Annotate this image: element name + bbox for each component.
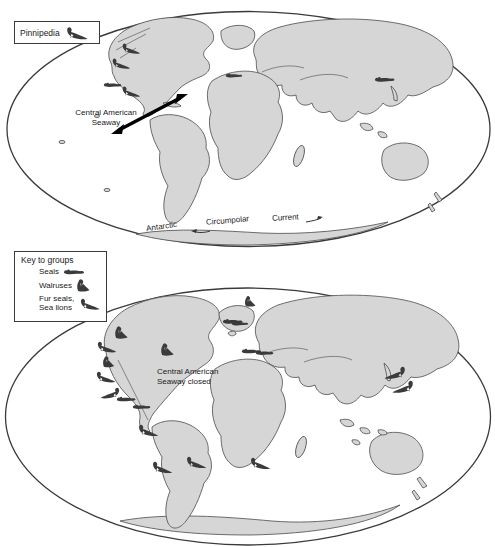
legend-item-walruses: Walruses	[39, 278, 102, 292]
map1-pacific-island	[59, 140, 65, 143]
map2-seaway-closed-label: Central American Seaway closed	[157, 367, 247, 387]
legend-fur-seals-line2: Sea lions	[39, 303, 72, 312]
seal-icon	[63, 266, 85, 276]
pinnipedia-furseal-icon	[64, 25, 88, 40]
pinnipedia-title-box: Pinnipedia	[14, 21, 100, 44]
legend-seals-label: Seals	[39, 267, 59, 276]
map2-seaway-label-line1: Central American	[157, 367, 247, 377]
legend-item-seals: Seals	[39, 266, 102, 276]
map2-modern	[6, 288, 491, 545]
fur-seal-icon	[78, 297, 100, 310]
map1-seaway-label-line1: Central American	[62, 108, 150, 118]
map2-seaway-label-line2: Seaway closed	[157, 377, 247, 387]
legend-item-fur-seals-sea-lions: Fur seals, Sea lions	[39, 294, 102, 312]
map1-seaway-label-line2: Seaway	[62, 118, 150, 128]
map1-seaway-label: Central American Seaway	[62, 108, 150, 128]
legend-walruses-label: Walruses	[39, 281, 72, 290]
map1-current-word-current: Current	[272, 212, 299, 222]
figure-canvas: Pinnipedia Central American Seaway Antar…	[0, 0, 495, 547]
legend-title: Key to groups	[21, 255, 102, 265]
legend-box: Key to groups Seals Walruses Fur seals, …	[14, 251, 107, 322]
legend-fur-seals-label: Fur seals, Sea lions	[39, 294, 74, 312]
map2-australia	[370, 432, 423, 474]
pinnipedia-label: Pinnipedia	[20, 28, 60, 38]
map1-pacific-island	[104, 188, 110, 191]
map1-miocene	[7, 12, 490, 247]
walrus-icon	[76, 278, 91, 292]
legend-fur-seals-line1: Fur seals,	[39, 294, 74, 303]
map2-british-isles	[228, 331, 236, 336]
map1-australia	[382, 143, 429, 180]
